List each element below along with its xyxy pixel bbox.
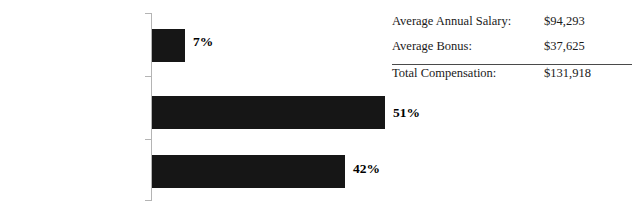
axis-tick-1 <box>145 76 151 77</box>
table-row-value: $94,293 <box>544 14 632 29</box>
table-row-label: Total Compensation: <box>392 66 544 81</box>
bar-chart: Less than $50,000 7% $50,000−$99,999 51%… <box>0 0 395 214</box>
table-row: Average Annual Salary: $94,293 <box>392 14 632 39</box>
table-row-value: $37,625 <box>544 39 632 54</box>
bar-2 <box>152 155 345 188</box>
axis-tick-2 <box>145 139 151 140</box>
bar-0 <box>152 29 185 62</box>
bar-value-label-2: 42% <box>353 161 380 177</box>
bar-1 <box>152 96 385 129</box>
bar-value-label-0: 7% <box>193 34 213 50</box>
table-row-label: Average Bonus: <box>392 39 544 54</box>
table-row-value: $131,918 <box>544 66 632 81</box>
axis-tick-top <box>145 13 151 14</box>
bar-value-label-1: 51% <box>393 105 420 121</box>
table-row-label: Average Annual Salary: <box>392 14 544 29</box>
table-row: Average Bonus: $37,625 <box>392 39 632 64</box>
compensation-summary-table: Average Annual Salary: $94,293 Average B… <box>392 14 632 92</box>
axis-tick-bottom <box>145 200 151 201</box>
table-row-total: Total Compensation: $131,918 <box>392 64 632 92</box>
